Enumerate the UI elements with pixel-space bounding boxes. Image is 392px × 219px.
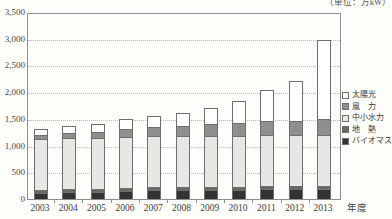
x-tick-mark: [224, 200, 225, 203]
bar-segment-2005-中小水力: [91, 138, 105, 189]
bar-segment-2011-バイオマス: [260, 189, 274, 199]
bar-2012: [289, 81, 303, 199]
bar-segment-2010-太陽光: [232, 101, 246, 123]
bar-segment-2011-太陽光: [260, 90, 274, 121]
bar-2003: [34, 129, 48, 199]
bar-segment-2012-風力: [289, 121, 303, 135]
legend-item-1: 太陽光: [342, 91, 376, 99]
bar-2005: [91, 124, 105, 199]
chart-screenshot: （単位：万kW） 05001,0001,5002,0002,5003,0003,…: [0, 0, 392, 219]
bar-segment-2006-バイオマス: [119, 191, 133, 199]
y-tick-label-3500: 3,500: [0, 8, 25, 17]
unit-note-label: （単位：万kW）: [325, 0, 391, 7]
bar-segment-2013-バイオマス: [317, 189, 331, 199]
bar-segment-2005-バイオマス: [91, 192, 105, 199]
x-tick-mark: [281, 200, 282, 203]
bar-segment-2008-太陽光: [176, 113, 190, 126]
bar-2004: [62, 126, 76, 199]
legend-label: バイオマス: [352, 137, 392, 145]
y-tick-label-2500: 2,500: [0, 61, 25, 70]
bar-segment-2004-中小水力: [62, 138, 76, 189]
legend-swatch-icon: [342, 103, 349, 110]
legend-swatch-icon: [342, 126, 349, 133]
legend-item-3: 中小水力: [342, 114, 384, 122]
bar-segment-2010-風力: [232, 123, 246, 136]
bar-segment-2013-風力: [317, 119, 331, 135]
x-axis-title: 年度: [347, 203, 367, 213]
bar-segment-2010-バイオマス: [232, 190, 246, 199]
plot-area: [27, 13, 341, 200]
bar-segment-2013-中小水力: [317, 135, 331, 186]
y-tick-label-500: 500: [0, 168, 25, 177]
bar-segment-2004-太陽光: [62, 126, 76, 133]
bar-2010: [232, 101, 246, 199]
x-tick-mark: [139, 200, 140, 203]
legend-swatch-icon: [342, 92, 349, 99]
bar-segment-2007-風力: [147, 127, 161, 136]
y-tick-label-3000: 3,000: [0, 35, 25, 44]
bar-segment-2008-風力: [176, 126, 190, 136]
bar-2009: [204, 108, 218, 199]
bar-segment-2009-バイオマス: [204, 190, 218, 199]
bar-segment-2009-太陽光: [204, 108, 218, 124]
bar-segment-2009-中小水力: [204, 136, 218, 187]
gridline-3000: [28, 40, 340, 41]
bar-segment-2009-風力: [204, 124, 218, 136]
bar-segment-2003-中小水力: [34, 139, 48, 190]
x-tick-label-2007: 2007: [144, 203, 163, 213]
bar-2008: [176, 113, 190, 199]
bar-segment-2008-バイオマス: [176, 190, 190, 199]
x-tick-mark: [196, 200, 197, 203]
bar-segment-2003-バイオマス: [34, 193, 48, 199]
x-tick-mark: [252, 200, 253, 203]
bar-segment-2005-太陽光: [91, 124, 105, 132]
bar-2007: [147, 116, 161, 199]
bar-segment-2008-中小水力: [176, 136, 190, 187]
legend-item-2: 風 力: [342, 103, 376, 111]
y-tick-label-2000: 2,000: [0, 88, 25, 97]
x-tick-label-2009: 2009: [200, 203, 219, 213]
bar-segment-2007-バイオマス: [147, 190, 161, 199]
legend-label: 中小水力: [352, 114, 384, 122]
x-tick-label-2003: 2003: [31, 203, 50, 213]
bar-2006: [119, 119, 133, 199]
x-tick-label-2013: 2013: [314, 203, 333, 213]
bar-segment-2004-バイオマス: [62, 192, 76, 199]
x-tick-mark: [54, 200, 55, 203]
y-tick-label-1500: 1,500: [0, 115, 25, 124]
bar-segment-2012-中小水力: [289, 135, 303, 186]
x-tick-label-2004: 2004: [59, 203, 78, 213]
legend-item-5: バイオマス: [342, 137, 392, 145]
y-tick-label-0: 0: [0, 195, 25, 204]
bar-segment-2012-バイオマス: [289, 189, 303, 199]
x-tick-label-2012: 2012: [285, 203, 304, 213]
x-tick-mark: [82, 200, 83, 203]
bar-segment-2007-太陽光: [147, 116, 161, 127]
bar-segment-2006-太陽光: [119, 119, 133, 129]
gridline-2500: [28, 66, 340, 67]
bar-segment-2006-中小水力: [119, 137, 133, 188]
bar-segment-2013-太陽光: [317, 40, 331, 119]
legend-swatch-icon: [342, 115, 349, 122]
bar-segment-2007-中小水力: [147, 136, 161, 187]
x-tick-mark: [111, 200, 112, 203]
bar-segment-2011-風力: [260, 121, 274, 135]
x-tick-mark: [167, 200, 168, 203]
bar-2011: [260, 90, 274, 199]
legend-item-4: 地 熱: [342, 126, 376, 134]
x-tick-label-2008: 2008: [172, 203, 191, 213]
x-tick-label-2006: 2006: [115, 203, 134, 213]
x-tick-label-2011: 2011: [257, 203, 276, 213]
y-tick-label-1000: 1,000: [0, 142, 25, 151]
x-tick-label-2010: 2010: [229, 203, 248, 213]
bar-segment-2006-風力: [119, 129, 133, 137]
x-tick-label-2005: 2005: [87, 203, 106, 213]
legend-label: 地 熱: [352, 126, 376, 134]
legend-label: 風 力: [352, 103, 376, 111]
bar-segment-2010-中小水力: [232, 136, 246, 187]
legend-swatch-icon: [342, 138, 349, 145]
bar-segment-2012-太陽光: [289, 81, 303, 121]
bar-2013: [317, 40, 331, 199]
legend-label: 太陽光: [352, 91, 376, 99]
x-tick-mark: [309, 200, 310, 203]
